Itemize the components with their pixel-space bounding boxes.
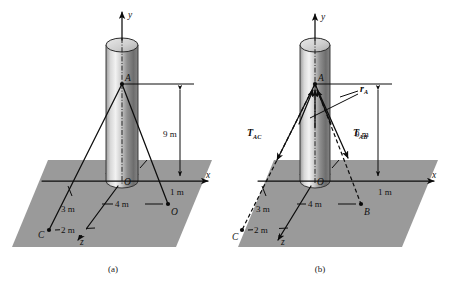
tension-ac-label-b: TAC [247, 127, 262, 140]
point-c-label-a: C [38, 230, 45, 240]
point-o-label-b: O [317, 177, 324, 187]
engineering-figure: y x z A 9 m O 1 m 4 m C 3 m [0, 0, 452, 285]
c-offset-dimension-label-b: 2 m [254, 225, 268, 235]
panel-a: y x z A 9 m O 1 m 4 m C 3 m [12, 10, 212, 274]
ob-dimension-label-a: 4 m [115, 199, 129, 209]
z-axis-label-b: z [280, 237, 285, 247]
point-c-label-b: C [232, 232, 239, 242]
c-offset-dimension-label-a: 2 m [61, 225, 75, 235]
point-b-label-a: O [171, 207, 178, 217]
height-dimension-label-a: 9 m [163, 129, 177, 139]
b-offset-dimension-label-b: 1 m [378, 187, 392, 197]
panel-a-caption: (a) [108, 264, 118, 274]
point-b-marker-b [359, 202, 363, 206]
x-axis-label-a: x [205, 170, 211, 180]
x-axis-label-b: x [431, 170, 437, 180]
y-axis-label-b: y [320, 12, 326, 22]
ob-dimension-label-b: 4 m [308, 199, 322, 209]
panel-b: y x z TAC TAB rA A [232, 12, 438, 274]
y-axis-label-a: y [127, 10, 133, 20]
b-offset-dimension-label-a: 1 m [170, 187, 184, 197]
ra-leader-upper-b [340, 91, 358, 97]
point-c-marker-a [47, 228, 51, 232]
point-o-label-a: O [124, 177, 131, 187]
c-depth-dimension-label-a: 3 m [61, 204, 75, 214]
point-b-label-b: B [364, 207, 370, 217]
point-b-marker-a [166, 202, 170, 206]
z-axis-label-a: z [79, 237, 84, 247]
point-c-marker-b [240, 228, 244, 232]
c-depth-dimension-label-b: 3 m [256, 204, 270, 214]
height-dimension-label-b: 9 m [355, 129, 369, 139]
position-vector-a-label-b: rA [360, 83, 368, 95]
panel-b-caption: (b) [315, 264, 326, 274]
point-a-label-b: A [317, 73, 324, 83]
point-a-label-a: A [124, 73, 131, 83]
